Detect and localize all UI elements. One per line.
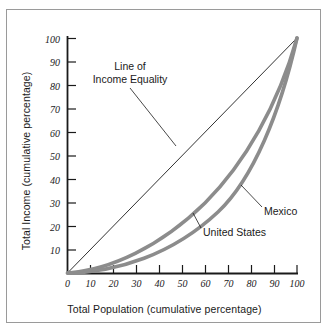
united-states-leader-line: [193, 213, 201, 228]
x-axis-title: Total Population (cumulative percentage): [0, 303, 329, 315]
y-tick-label-70: 70: [38, 104, 60, 115]
annotation-united-states: United States: [203, 226, 266, 239]
x-tick-label-90: 90: [270, 278, 280, 289]
y-tick-label-20: 20: [38, 221, 60, 232]
x-tick-label-80: 80: [247, 278, 257, 289]
equality-leader-line: [130, 88, 176, 146]
y-tick-label-100: 100: [38, 33, 60, 44]
x-tick-label-0: 0: [65, 278, 70, 289]
y-tick-label-50: 50: [38, 151, 60, 162]
y-tick-label-80: 80: [38, 80, 60, 91]
x-tick-label-70: 70: [224, 278, 234, 289]
x-tick-label-50: 50: [178, 278, 188, 289]
x-tick-label-60: 60: [201, 278, 211, 289]
y-axis-title: Total Income (cumulative percentage): [20, 41, 32, 281]
y-tick-label-30: 30: [38, 198, 60, 209]
y-tick-label-90: 90: [38, 57, 60, 68]
annotation-equality-line1: Line of: [86, 60, 174, 73]
x-tick-label-10: 10: [86, 278, 96, 289]
y-tick-label-10: 10: [38, 245, 60, 256]
annotation-mexico: Mexico: [264, 205, 297, 218]
lorenz-curve-figure: 100 90 80 70 60 50 40 30 20 10 0 10 20 3…: [0, 0, 329, 336]
y-axis-ticks: [68, 39, 76, 251]
x-tick-label-40: 40: [155, 278, 165, 289]
plot-canvas: [0, 0, 329, 336]
annotation-equality-line: Line of Income Equality: [86, 60, 174, 85]
x-tick-label-100: 100: [290, 278, 305, 289]
y-tick-label-40: 40: [38, 174, 60, 185]
mexico-leader-line: [241, 185, 262, 207]
y-tick-label-60: 60: [38, 127, 60, 138]
annotation-equality-line2: Income Equality: [86, 73, 174, 86]
x-tick-label-20: 20: [109, 278, 119, 289]
x-tick-label-30: 30: [132, 278, 142, 289]
